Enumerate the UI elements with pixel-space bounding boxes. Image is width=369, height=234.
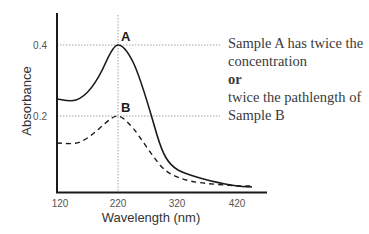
annotation-line-3: or: [228, 70, 363, 88]
x-axis-label: Wavelength (nm): [102, 210, 201, 225]
x-tick-220: 220: [110, 198, 127, 209]
x-tick-120: 120: [52, 198, 69, 209]
x-tick-420: 420: [229, 198, 246, 209]
y-tick-0.4: 0.4: [33, 40, 47, 51]
point-label-b: B: [121, 100, 130, 115]
y-axis-label: Absorbance: [19, 66, 34, 135]
y-tick-0.2: 0.2: [33, 111, 47, 122]
annotation-text: Sample A has twice the concentration or …: [228, 34, 363, 124]
annotation-line-2: concentration: [228, 52, 363, 70]
annotation-line-1: Sample A has twice the: [228, 34, 363, 52]
x-tick-320: 320: [169, 198, 186, 209]
annotation-line-5: Sample B: [228, 106, 363, 124]
annotation-line-4: twice the pathlength of: [228, 88, 363, 106]
point-label-a: A: [121, 29, 131, 44]
